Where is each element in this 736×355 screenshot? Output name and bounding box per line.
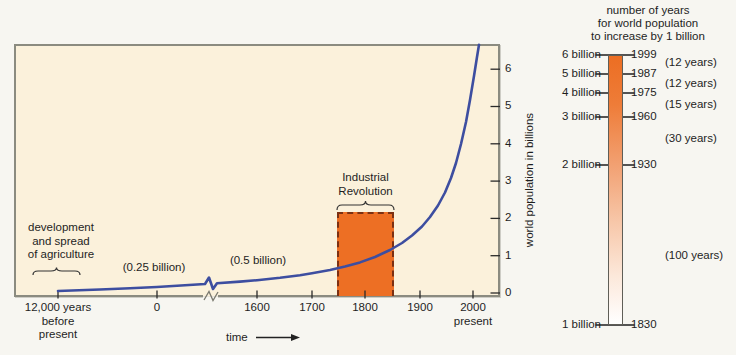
y-tick-label: 2	[505, 211, 521, 225]
billion-scale-bar	[608, 55, 623, 325]
level-year: 1930	[631, 158, 671, 172]
industrial-revolution-label: Industrial Revolution	[315, 171, 416, 198]
interval-label: (15 years)	[665, 98, 735, 112]
industrial-revolution-band	[337, 212, 394, 296]
y-axis-title: world population in billions	[523, 113, 535, 247]
figure: 0 1 2 3 4 5 6 world population in billio…	[0, 0, 736, 355]
level-population: 1 billion	[531, 318, 601, 332]
scale-title: number of years for world population to …	[560, 4, 736, 43]
population-0.25-annotation: (0.25 billion)	[104, 261, 204, 275]
y-tick-label: 3	[505, 174, 521, 188]
interval-label: (12 years)	[665, 56, 735, 70]
x-tick-label: 0	[107, 301, 207, 315]
interval-label: (30 years)	[665, 132, 735, 146]
x-axis-title: time	[226, 331, 248, 345]
level-population: 3 billion	[531, 110, 601, 124]
interval-label: (100 years)	[665, 249, 735, 263]
agriculture-annotation: development and spread of agriculture	[10, 221, 112, 262]
level-population: 4 billion	[531, 86, 601, 100]
time-arrow-icon	[256, 334, 300, 341]
y-tick-label: 5	[505, 99, 521, 113]
interval-label: (12 years)	[665, 77, 735, 91]
population-0.5-annotation: (0.5 billion)	[208, 254, 308, 268]
level-population: 2 billion	[531, 158, 601, 172]
y-tick-label: 6	[505, 62, 521, 76]
level-year: 1830	[631, 318, 671, 332]
y-tick-label: 4	[505, 137, 521, 151]
x-tick-label: 12,000 years before present	[8, 301, 108, 342]
level-population: 5 billion	[531, 67, 601, 81]
level-year: 1960	[631, 110, 671, 124]
level-population: 6 billion	[531, 48, 601, 62]
y-tick-label: 1	[505, 249, 521, 263]
x-tick-label: 2000 present	[423, 301, 523, 328]
y-tick-label: 0	[505, 286, 521, 300]
